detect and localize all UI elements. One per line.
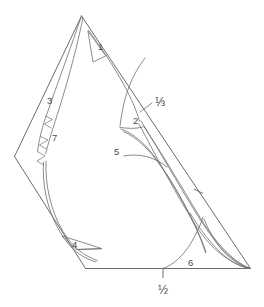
label-piece-3: 3 bbox=[47, 95, 52, 106]
outline-left-lower-edge bbox=[15, 157, 86, 269]
pattern-figure: 1 2 3 4 5 6 7 ⅓ ½ bbox=[0, 0, 264, 307]
label-piece-7: 7 bbox=[52, 132, 57, 143]
label-scale-half: ½ bbox=[158, 283, 168, 297]
piece-5-body-curve-inner bbox=[124, 132, 206, 254]
converging-curve-lower bbox=[190, 213, 251, 269]
piece-5-body-curve bbox=[121, 129, 206, 252]
label-scale-third: ⅓ bbox=[155, 95, 165, 109]
piece-2-upper-curve bbox=[89, 30, 140, 121]
converging-curve-outer bbox=[141, 121, 251, 269]
label-piece-4: 4 bbox=[72, 239, 77, 250]
outline-right-edge bbox=[82, 16, 251, 269]
label-piece-1: 1 bbox=[98, 41, 103, 52]
label-piece-2: 2 bbox=[133, 115, 138, 126]
pattern-drawing-canvas: 1 2 3 4 5 6 7 ⅓ ½ bbox=[0, 0, 264, 307]
scale-third-leader-line bbox=[140, 103, 152, 112]
piece-2-lower-edge bbox=[120, 127, 143, 128]
zigzag-lower-break-icon bbox=[40, 137, 49, 150]
piece-3-inner-curve bbox=[38, 16, 82, 152]
right-edge-tick-icon bbox=[194, 189, 203, 194]
piece-7-body-curve bbox=[43, 162, 96, 262]
outline-left-upper-edge bbox=[15, 16, 82, 157]
converging-curve-inner bbox=[144, 126, 251, 269]
label-piece-5: 5 bbox=[114, 146, 119, 157]
label-piece-6: 6 bbox=[188, 257, 193, 268]
piece-4-sliver bbox=[63, 236, 102, 250]
piece-6-curve-inner bbox=[204, 219, 251, 269]
